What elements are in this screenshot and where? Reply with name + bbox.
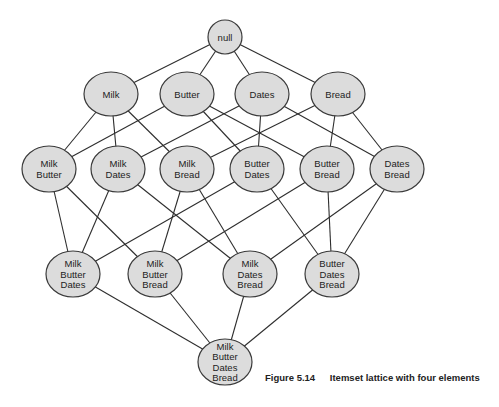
node-label: Butter bbox=[314, 158, 339, 169]
node-label: Milk bbox=[242, 258, 259, 269]
lattice-node-bread: Bread bbox=[311, 72, 365, 116]
node-label: Dates bbox=[238, 269, 263, 280]
lattice-node-butter-dates: ButterDates bbox=[230, 146, 284, 192]
node-label: Butter bbox=[60, 269, 85, 280]
node-label: Butter bbox=[174, 89, 199, 100]
node-label: Bread bbox=[319, 279, 344, 290]
lattice-node-null: null bbox=[208, 20, 242, 54]
node-label: Bread bbox=[142, 279, 167, 290]
lattice-node-milk: Milk bbox=[84, 72, 138, 116]
itemset-lattice-diagram: nullMilkButterDatesBreadMilkButterMilkDa… bbox=[0, 0, 499, 407]
node-label: Butter bbox=[36, 169, 61, 180]
node-label: Milk bbox=[179, 158, 196, 169]
node-label: Butter bbox=[244, 158, 269, 169]
lattice-node-milk-butter-bread: MilkButterBread bbox=[128, 251, 182, 297]
node-label: Dates bbox=[213, 362, 238, 373]
node-label: Dates bbox=[250, 89, 275, 100]
lattice-node-milk-butter-dates-bread: MilkButterDatesBread bbox=[198, 339, 252, 385]
lattice-node-dates-bread: DatesBread bbox=[370, 146, 424, 192]
lattice-node-milk-dates: MilkDates bbox=[91, 146, 145, 192]
node-label: Bread bbox=[314, 169, 339, 180]
lattice-node-butter-bread: ButterBread bbox=[300, 146, 354, 192]
node-label: Dates bbox=[61, 279, 86, 290]
node-label: null bbox=[218, 32, 233, 43]
lattice-node-dates: Dates bbox=[235, 72, 289, 116]
lattice-node-milk-bread: MilkBread bbox=[160, 146, 214, 192]
node-label: Dates bbox=[245, 169, 270, 180]
node-label: Milk bbox=[103, 89, 120, 100]
node-label: Bread bbox=[325, 89, 350, 100]
lattice-node-milk-dates-bread: MilkDatesBread bbox=[223, 251, 277, 297]
node-label: Dates bbox=[320, 269, 345, 280]
lattice-node-milk-butter: MilkButter bbox=[22, 146, 76, 192]
figure-caption-text: Itemset lattice with four elements bbox=[330, 372, 480, 383]
node-label: Bread bbox=[237, 279, 262, 290]
node-label: Butter bbox=[142, 269, 167, 280]
node-label: Milk bbox=[217, 341, 234, 352]
node-label: Butter bbox=[319, 258, 344, 269]
node-label: Bread bbox=[384, 169, 409, 180]
lattice-node-butter: Butter bbox=[160, 72, 214, 116]
node-label: Butter bbox=[212, 351, 237, 362]
node-label: Dates bbox=[106, 169, 131, 180]
node-label: Milk bbox=[110, 158, 127, 169]
lattice-node-milk-butter-dates: MilkButterDates bbox=[46, 251, 100, 297]
lattice-node-butter-dates-bread: ButterDatesBread bbox=[305, 251, 359, 297]
node-label: Milk bbox=[41, 158, 58, 169]
node-label: Milk bbox=[65, 258, 82, 269]
figure-caption: Figure 5.14 Itemset lattice with four el… bbox=[265, 372, 480, 383]
figure-number: Figure 5.14 bbox=[265, 372, 315, 383]
node-label: Bread bbox=[174, 169, 199, 180]
node-label: Dates bbox=[385, 158, 410, 169]
node-label: Milk bbox=[147, 258, 164, 269]
node-label: Bread bbox=[212, 372, 237, 383]
